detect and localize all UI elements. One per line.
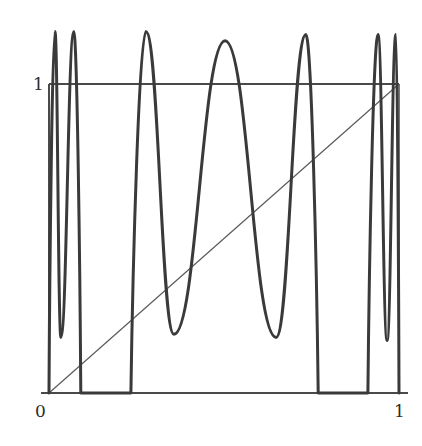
diagonal-line (49, 84, 399, 393)
x-tick-label-end: 1 (394, 401, 405, 421)
y-tick-label-one: 1 (33, 74, 44, 94)
x-tick-label-origin: 0 (35, 401, 46, 421)
chart: 0 1 1 (0, 0, 422, 446)
map-curve (49, 32, 399, 394)
